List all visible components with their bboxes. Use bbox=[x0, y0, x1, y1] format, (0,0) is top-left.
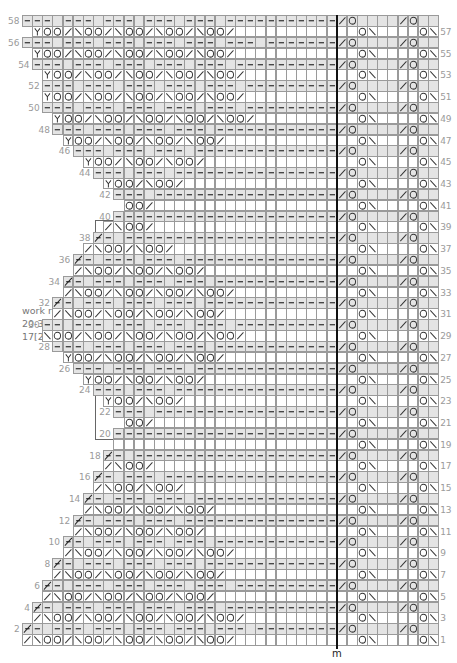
blank-cell bbox=[357, 558, 368, 569]
stitch-cell bbox=[103, 48, 114, 59]
stitch-cell bbox=[245, 37, 256, 48]
blank-cell bbox=[357, 319, 368, 330]
stitch-cell bbox=[103, 232, 114, 243]
stitch-cell bbox=[255, 536, 266, 547]
left-decrease-icon bbox=[368, 201, 377, 210]
stitch-cell bbox=[428, 591, 439, 602]
purl-dash-icon bbox=[175, 298, 184, 307]
purl-dash-icon bbox=[277, 516, 286, 525]
stitch-cell bbox=[154, 243, 165, 254]
stitch-cell bbox=[184, 265, 195, 276]
stitch-cell bbox=[184, 623, 195, 634]
stitch-cell bbox=[103, 276, 114, 287]
yarn-over-icon bbox=[409, 494, 418, 503]
purl-dash-icon bbox=[317, 494, 326, 503]
stitch-cell bbox=[398, 450, 409, 461]
stitch-cell bbox=[103, 504, 114, 515]
stitch-cell bbox=[306, 341, 317, 352]
blank-cell bbox=[306, 634, 317, 645]
stitch-cell bbox=[73, 26, 84, 37]
left-decrease-icon bbox=[429, 592, 438, 601]
stitch-cell bbox=[113, 406, 124, 417]
stitch-cell bbox=[266, 15, 277, 26]
stitch-cell bbox=[347, 167, 358, 178]
right-decrease-icon bbox=[226, 288, 235, 297]
blank-cell bbox=[286, 26, 297, 37]
blank-cell bbox=[255, 308, 266, 319]
purl-dash-icon bbox=[287, 298, 296, 307]
blank-cell bbox=[377, 341, 388, 352]
stitch-cell bbox=[418, 221, 429, 232]
stitch-cell bbox=[245, 363, 256, 374]
stitch-cell bbox=[174, 504, 185, 515]
blank-cell bbox=[387, 232, 398, 243]
blank-cell bbox=[398, 221, 409, 232]
stitch-cell bbox=[347, 623, 358, 634]
blank-cell bbox=[195, 460, 206, 471]
stitch-cell bbox=[144, 450, 155, 461]
blank-cell bbox=[255, 460, 266, 471]
row-number: 3 bbox=[440, 613, 446, 623]
stitch-cell bbox=[174, 623, 185, 634]
stitch-cell bbox=[215, 254, 226, 265]
blank-cell bbox=[408, 69, 419, 80]
stitch-cell bbox=[124, 504, 135, 515]
purl-dash-icon bbox=[165, 603, 174, 612]
stitch-cell bbox=[154, 515, 165, 526]
stitch-cell bbox=[398, 124, 409, 135]
yarn-over-icon bbox=[196, 114, 205, 123]
blank-cell bbox=[357, 15, 368, 26]
y-stitch-icon bbox=[43, 92, 52, 101]
stitch-cell bbox=[42, 319, 53, 330]
purl-dash-icon bbox=[246, 407, 255, 416]
purl-dash-icon bbox=[185, 451, 194, 460]
purl-dash-icon bbox=[277, 60, 286, 69]
yarn-over-icon bbox=[358, 440, 367, 449]
blank-cell bbox=[154, 80, 165, 91]
right-decrease-icon bbox=[94, 570, 103, 579]
stitch-cell bbox=[235, 69, 246, 80]
blank-cell bbox=[306, 265, 317, 276]
stitch-cell bbox=[164, 254, 175, 265]
blank-cell bbox=[93, 602, 104, 613]
purl-dash-icon bbox=[135, 407, 144, 416]
stitch-cell bbox=[73, 515, 84, 526]
blank-cell bbox=[245, 417, 256, 428]
blank-cell bbox=[428, 59, 439, 70]
stitch-cell bbox=[347, 15, 358, 26]
yarn-over-icon bbox=[409, 233, 418, 242]
yarn-over-icon bbox=[165, 570, 174, 579]
right-decrease-icon bbox=[399, 168, 408, 177]
blank-cell bbox=[215, 504, 226, 515]
purl-dash-icon bbox=[206, 559, 215, 568]
stitch-cell bbox=[428, 200, 439, 211]
purl-dash-icon bbox=[135, 190, 144, 199]
blank-cell bbox=[428, 124, 439, 135]
stitch-cell bbox=[428, 48, 439, 59]
stitch-cell bbox=[235, 515, 246, 526]
yarn-over-icon bbox=[419, 266, 428, 275]
purl-dash-icon bbox=[84, 364, 93, 373]
stitch-cell bbox=[266, 558, 277, 569]
blank-cell bbox=[418, 602, 429, 613]
stitch-cell bbox=[113, 341, 124, 352]
left-decrease-icon bbox=[368, 527, 377, 536]
stitch-cell bbox=[195, 254, 206, 265]
blank-cell bbox=[428, 363, 439, 374]
purl-dash-icon bbox=[84, 81, 93, 90]
blank-cell bbox=[124, 439, 135, 450]
purl-dash-icon bbox=[216, 298, 225, 307]
purl-dash-icon bbox=[246, 277, 255, 286]
stitch-cell bbox=[83, 558, 94, 569]
purl-dash-icon bbox=[297, 16, 306, 25]
left-decrease-icon bbox=[368, 114, 377, 123]
row-number: 40 bbox=[99, 212, 110, 222]
stitch-cell bbox=[124, 37, 135, 48]
stitch-cell bbox=[266, 406, 277, 417]
purl-dash-icon bbox=[287, 364, 296, 373]
blank-cell bbox=[276, 482, 287, 493]
stitch-cell bbox=[93, 276, 104, 287]
purl-dash-icon bbox=[307, 537, 316, 546]
stitch-cell bbox=[408, 319, 419, 330]
stitch-cell bbox=[347, 450, 358, 461]
